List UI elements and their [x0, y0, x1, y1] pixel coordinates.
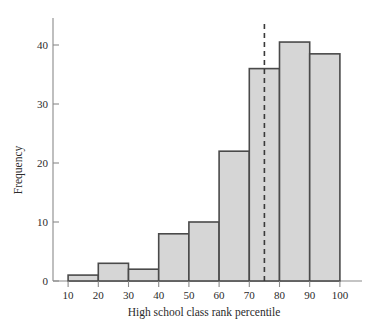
histogram-plot: 0 10 20 30 40 Frequency: [0, 0, 382, 328]
bar-40-50: [159, 234, 189, 281]
y-tick-label-0: 0: [43, 275, 49, 287]
bar-90-100: [310, 54, 340, 281]
x-tick-label-50: 50: [183, 289, 195, 301]
bar-80-90: [280, 42, 310, 281]
x-tick-label-20: 20: [93, 289, 105, 301]
x-tick-label-40: 40: [153, 289, 165, 301]
y-tick-label-20: 20: [37, 157, 49, 169]
y-axis-title: Frequency: [12, 145, 25, 194]
x-tick-label-70: 70: [244, 289, 256, 301]
x-tick-label-80: 80: [274, 289, 286, 301]
y-tick-label-40: 40: [37, 39, 49, 51]
bar-30-40: [129, 269, 159, 281]
x-tick-label-10: 10: [63, 289, 75, 301]
bar-10-20: [68, 275, 98, 281]
y-tick-label-30: 30: [37, 98, 49, 110]
bar-50-60: [189, 222, 219, 281]
x-tick-label-90: 90: [304, 289, 316, 301]
bar-20-30: [98, 263, 128, 281]
y-tick-label-10: 10: [37, 216, 49, 228]
histogram-figure: 0 10 20 30 40 Frequency: [0, 0, 382, 328]
x-axis-title: High school class rank percentile: [128, 306, 281, 319]
x-tick-label-100: 100: [332, 289, 349, 301]
bar-60-70: [219, 151, 249, 281]
histogram-bars: [68, 42, 340, 281]
x-tick-label-30: 30: [123, 289, 135, 301]
x-axis-ticks: [68, 281, 340, 287]
y-axis-ticks: [53, 45, 59, 281]
x-tick-label-60: 60: [214, 289, 226, 301]
